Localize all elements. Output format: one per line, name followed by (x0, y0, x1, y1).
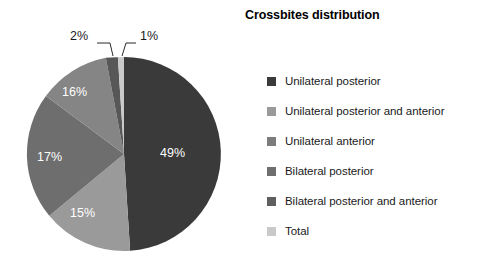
pie-value-label-49: 49% (160, 146, 185, 160)
pie-callout-label-2: 2% (70, 29, 88, 43)
chart-figure: 49% 15% 17% 16% 2% 1% Crossbites distrib… (0, 0, 491, 267)
pie-value-label-17: 17% (37, 150, 62, 164)
pie-callout-label-1: 1% (140, 29, 158, 43)
legend-swatch-icon (267, 197, 276, 206)
legend-swatch-icon (267, 107, 276, 116)
legend-item-label: Unilateral anterior (285, 135, 375, 147)
pie-chart-svg (0, 0, 245, 267)
legend-item-label: Total (285, 225, 309, 237)
legend-panel: Crossbites distribution Unilateral poste… (245, 0, 491, 267)
legend-swatch-icon (267, 77, 276, 86)
legend-item-label: Bilateral posterior (285, 165, 374, 177)
callout-leader-line-2pct (97, 43, 113, 56)
legend-item-total[interactable]: Total (267, 216, 491, 246)
legend-item-unilateral-anterior[interactable]: Unilateral anterior (267, 126, 491, 156)
legend-swatch-icon (267, 167, 276, 176)
legend-item-bilateral-posterior-and-anterior[interactable]: Bilateral posterior and anterior (267, 186, 491, 216)
legend-item-unilateral-posterior[interactable]: Unilateral posterior (267, 66, 491, 96)
legend-item-label: Bilateral posterior and anterior (285, 195, 437, 207)
legend-item-bilateral-posterior[interactable]: Bilateral posterior (267, 156, 491, 186)
legend-swatch-icon (267, 137, 276, 146)
callout-leader-line-1pct (122, 43, 136, 56)
legend-list: Unilateral posterior Unilateral posterio… (267, 66, 491, 246)
pie-value-label-15: 15% (70, 206, 95, 220)
pie-value-label-16: 16% (62, 85, 87, 99)
legend-item-label: Unilateral posterior (285, 75, 381, 87)
chart-title: Crossbites distribution (245, 8, 380, 22)
pie-chart: 49% 15% 17% 16% 2% 1% (0, 0, 245, 267)
legend-item-unilateral-posterior-and-anterior[interactable]: Unilateral posterior and anterior (267, 96, 491, 126)
legend-item-label: Unilateral posterior and anterior (285, 105, 444, 117)
legend-swatch-icon (267, 227, 276, 236)
